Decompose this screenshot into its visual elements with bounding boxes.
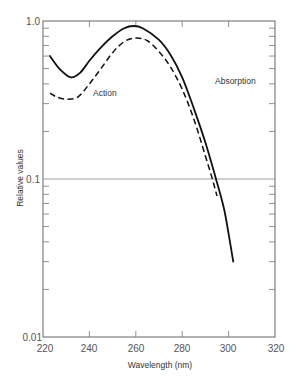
y-tick-label-1.0: 1.0 [26,16,40,27]
x-tick-label-300: 300 [220,343,237,354]
absorption-annotation: Absorption [215,76,256,86]
y-tick-label-0.01: 0.01 [23,332,43,343]
x-tick-label-260: 260 [128,343,145,354]
y-tick-label-0.1: 0.1 [26,174,40,185]
x-tick-label-220: 220 [37,343,54,354]
absorption-curve [50,26,233,262]
x-axis-title: Wavelength (nm) [128,360,193,370]
action-curve [50,38,217,196]
x-tick-label-280: 280 [174,343,191,354]
x-tick-label-240: 240 [81,343,98,354]
action-annotation: Action [93,88,117,98]
y-axis-title: Relative values [15,149,25,207]
chart: Absorption Action 1.0 0.1 0.01 220 240 2… [0,0,299,381]
x-tick-label-320: 320 [268,343,285,354]
